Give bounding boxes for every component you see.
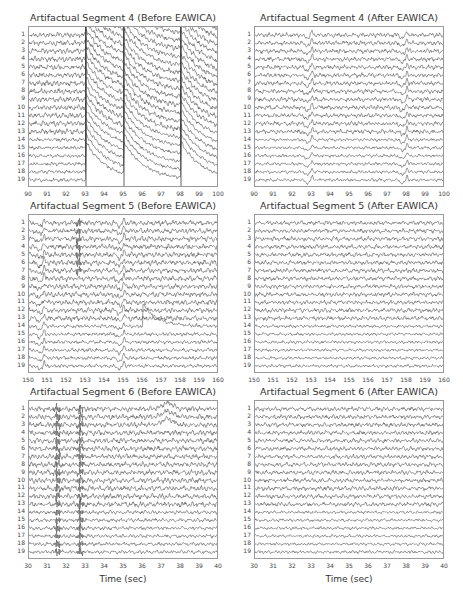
channel-trace <box>29 353 218 362</box>
x-tick-label: 31 <box>37 562 57 569</box>
channel-trace <box>255 407 444 412</box>
channel-label: 17 <box>237 345 251 352</box>
channel-trace <box>29 548 218 556</box>
channel-trace <box>255 135 444 144</box>
channel-trace <box>29 290 218 299</box>
channel-trace <box>255 160 444 168</box>
x-tick-label: 30 <box>18 562 38 569</box>
channel-trace <box>255 519 444 522</box>
channel-label: 14 <box>11 321 25 328</box>
channel-trace <box>255 228 444 233</box>
panel-title: Artifactual Segment 6 (Before EAWICA) <box>28 386 218 397</box>
x-tick-label: 35 <box>113 562 133 569</box>
channel-trace <box>255 332 444 336</box>
channel-label: 13 <box>237 127 251 134</box>
channel-trace <box>255 325 444 329</box>
channel-label: 5 <box>11 62 25 69</box>
x-tick-label: 154 <box>94 376 114 383</box>
x-tick-label: 99 <box>415 190 435 197</box>
channel-label: 12 <box>237 305 251 312</box>
channel-label: 3 <box>237 420 251 427</box>
channel-label: 4 <box>237 54 251 61</box>
x-tick-label: 99 <box>189 190 209 197</box>
channel-label: 3 <box>237 234 251 241</box>
channel-label: 16 <box>11 523 25 530</box>
channel-trace <box>29 337 218 346</box>
channel-label: 17 <box>237 531 251 538</box>
channel-label: 14 <box>237 135 251 142</box>
channel-trace <box>255 119 444 128</box>
x-tick-label: 159 <box>415 376 435 383</box>
x-tick-label: 33 <box>75 562 95 569</box>
x-axis-title-left: Time (sec) <box>63 574 183 584</box>
channel-label: 19 <box>11 361 25 368</box>
x-tick-label: 100 <box>434 190 454 197</box>
eeg-traces <box>29 215 218 373</box>
x-tick-label: 90 <box>244 190 264 197</box>
x-tick-label: 96 <box>132 190 152 197</box>
x-tick-label: 150 <box>18 376 38 383</box>
channel-label: 1 <box>237 404 251 411</box>
channel-label: 12 <box>237 491 251 498</box>
channel-label: 4 <box>237 428 251 435</box>
channel-trace <box>255 71 444 80</box>
x-tick-label: 33 <box>301 562 321 569</box>
plot-area <box>254 26 444 187</box>
channel-trace <box>255 112 444 120</box>
channel-label: 10 <box>237 476 251 483</box>
channel-label: 19 <box>11 175 25 182</box>
channel-label: 1 <box>11 218 25 225</box>
channel-trace <box>29 250 218 261</box>
channel-trace <box>255 63 444 72</box>
panel-title: Artifactual Segment 4 (After EAWICA) <box>254 12 444 23</box>
channel-label: 18 <box>11 539 25 546</box>
plot-area <box>28 214 218 373</box>
channel-label: 8 <box>237 274 251 281</box>
channel-label: 7 <box>11 78 25 85</box>
channel-trace <box>255 534 444 538</box>
channel-label: 12 <box>237 119 251 126</box>
channel-trace <box>29 475 218 484</box>
channel-trace <box>255 168 444 176</box>
channel-label: 8 <box>237 460 251 467</box>
channel-trace <box>29 453 218 462</box>
channel-trace <box>255 300 444 305</box>
channel-label: 6 <box>237 258 251 265</box>
panel-title: Artifactual Segment 5 (Before EAWICA) <box>28 200 218 211</box>
channel-trace <box>255 316 444 321</box>
x-tick-label: 38 <box>396 562 416 569</box>
channel-label: 13 <box>237 499 251 506</box>
channel-label: 2 <box>237 226 251 233</box>
channel-label: 3 <box>11 234 25 241</box>
channel-trace <box>255 95 444 104</box>
x-tick-label: 39 <box>189 562 209 569</box>
channel-label: 1 <box>237 30 251 37</box>
channel-label: 5 <box>237 436 251 443</box>
channel-trace <box>255 38 444 47</box>
channel-trace <box>255 341 444 345</box>
channel-trace <box>29 409 218 421</box>
channel-trace <box>255 47 444 55</box>
panel-title: Artifactual Segment 5 (After EAWICA) <box>254 200 444 211</box>
channel-label: 10 <box>11 290 25 297</box>
channel-trace <box>255 126 444 137</box>
channel-label: 9 <box>11 282 25 289</box>
x-tick-label: 157 <box>377 376 397 383</box>
channel-label: 7 <box>237 452 251 459</box>
channel-trace <box>29 401 218 414</box>
channel-trace <box>29 531 218 540</box>
channel-trace <box>29 226 218 236</box>
channel-trace <box>29 272 218 283</box>
channel-label: 11 <box>237 297 251 304</box>
x-tick-label: 34 <box>94 562 114 569</box>
x-tick-label: 95 <box>113 190 133 197</box>
eeg-traces <box>255 401 444 559</box>
eeg-traces <box>255 27 444 187</box>
channel-label: 13 <box>11 499 25 506</box>
channel-label: 13 <box>11 127 25 134</box>
channel-label: 5 <box>237 62 251 69</box>
channel-label: 14 <box>237 321 251 328</box>
channel-label: 4 <box>11 54 25 61</box>
channel-trace <box>255 550 444 553</box>
x-tick-label: 151 <box>263 376 283 383</box>
